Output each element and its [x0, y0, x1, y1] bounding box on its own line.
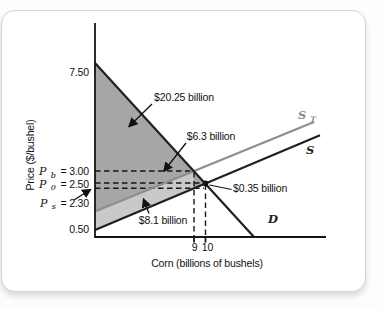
- x-axis-title: Corn (billions of bushels): [151, 257, 263, 269]
- x-tick-9: 9: [192, 241, 198, 253]
- equilibrium-point: [203, 181, 209, 187]
- st-symbol: S: [298, 108, 306, 122]
- ps-subscript: s: [52, 202, 56, 211]
- y-label-750: 7.50: [69, 66, 89, 78]
- deadweight-loss-leader: [210, 185, 232, 190]
- tax-revenue-value: $6.3 billion: [187, 130, 236, 142]
- supply-demand-chart: Price ($/bushel) Corn (billions of bushe…: [0, 0, 383, 309]
- x-tick-10: 10: [202, 241, 214, 253]
- producer-surplus-value: $8.1 billion: [139, 214, 188, 226]
- p0-subscript: 0: [51, 183, 56, 192]
- y-axis-title: Price ($/bushel): [24, 119, 36, 190]
- supply-tax-curve-label: S T: [298, 108, 317, 124]
- ps-value: = 2.30: [60, 197, 89, 209]
- p0-value: = 2.50: [60, 178, 89, 190]
- p0-symbol: P: [38, 178, 47, 191]
- ps-symbol: P: [39, 197, 48, 210]
- demand-curve-label: D: [267, 212, 278, 226]
- st-subscript: T: [310, 115, 317, 124]
- consumer-surplus-value: $20.25 billion: [154, 91, 214, 103]
- deadweight-loss-value: $0.35 billion: [233, 182, 287, 194]
- y-label-050: 0.50: [69, 223, 89, 235]
- pb-value: = 3.00: [60, 165, 89, 177]
- supply-curve-label: S: [306, 143, 314, 157]
